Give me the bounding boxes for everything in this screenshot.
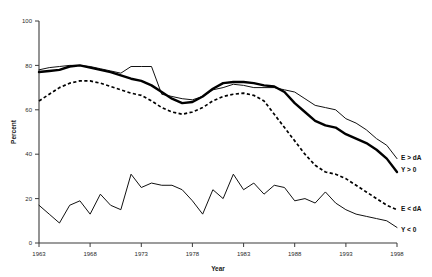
x-tick-label-1963: 1963: [32, 251, 46, 257]
chart-figure: 0 20 40 60 80 100 1963 1968 1973 1978 19…: [0, 0, 432, 277]
chart-background: [0, 0, 432, 277]
x-tick-label-1973: 1973: [135, 251, 149, 257]
legend-label-y-lt-0: Y < 0: [401, 226, 417, 233]
legend-label-y-gt-0: Y > 0: [401, 166, 417, 173]
y-tick-label-100: 100: [22, 18, 33, 24]
y-tick-label-20: 20: [25, 196, 32, 202]
y-axis-title: Percent: [10, 119, 17, 144]
y-tick-label-80: 80: [25, 63, 32, 69]
legend-label-e-lt-da: E < dA: [401, 205, 422, 212]
legend-label-e-gt-da: E > dA: [401, 154, 422, 161]
y-tick-label-40: 40: [25, 151, 32, 157]
x-tick-label-1998: 1998: [390, 251, 404, 257]
x-tick-label-1993: 1993: [339, 251, 353, 257]
x-tick-label-1968: 1968: [83, 251, 97, 257]
x-tick-label-1978: 1978: [186, 251, 200, 257]
y-tick-label-60: 60: [25, 107, 32, 113]
x-tick-label-1983: 1983: [237, 251, 251, 257]
x-axis-title: Year: [211, 265, 225, 272]
x-tick-label-1988: 1988: [288, 251, 302, 257]
